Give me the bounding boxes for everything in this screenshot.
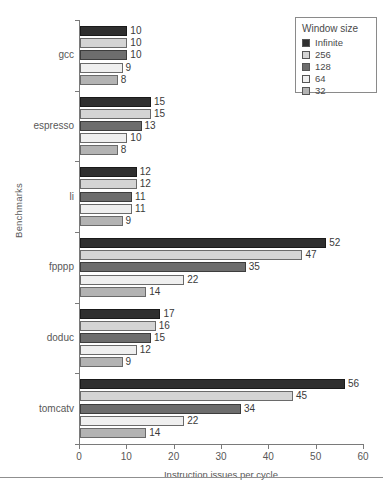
bar-value-label: 8	[121, 145, 127, 155]
bar	[80, 216, 123, 226]
bar-value-label: 45	[296, 391, 307, 401]
bar	[80, 391, 293, 401]
category-label: espresso	[4, 120, 74, 131]
bar	[80, 204, 132, 214]
legend-swatch-icon	[302, 87, 310, 95]
bar	[80, 121, 142, 131]
x-axis-label: Instruction issues per cycle	[79, 469, 363, 480]
legend-title: Window size	[302, 23, 370, 34]
category-label: fpppp	[4, 261, 74, 272]
bar-value-label: 14	[149, 428, 160, 438]
legend: Window size Infinite2561286432	[295, 17, 377, 93]
bar-value-label: 10	[130, 133, 141, 143]
x-tick	[221, 445, 222, 449]
category-label: li	[4, 191, 74, 202]
bar-value-label: 10	[130, 38, 141, 48]
x-tick-label: 40	[248, 451, 288, 462]
x-tick	[126, 445, 127, 449]
x-tick	[174, 445, 175, 449]
legend-item[interactable]: Infinite	[302, 37, 370, 48]
legend-label: 256	[315, 50, 331, 60]
bar	[80, 333, 151, 343]
category-label: tomcatv	[4, 403, 74, 414]
bar-value-label: 9	[126, 357, 132, 367]
x-tick-label: 10	[106, 451, 146, 462]
bar	[80, 145, 118, 155]
legend-item[interactable]: 128	[302, 61, 370, 72]
bar-value-label: 22	[187, 275, 198, 285]
y-tick	[75, 373, 79, 374]
bar-value-label: 13	[145, 121, 156, 131]
bar	[80, 357, 123, 367]
legend-item[interactable]: 64	[302, 73, 370, 84]
x-tick	[268, 445, 269, 449]
bar	[80, 167, 137, 177]
bar	[80, 238, 326, 248]
legend-label: 128	[315, 62, 331, 72]
bar-value-label: 8	[121, 75, 127, 85]
x-tick	[316, 445, 317, 449]
legend-entries: Infinite2561286432	[302, 37, 370, 96]
bar-value-label: 34	[244, 404, 255, 414]
x-tick	[363, 445, 364, 449]
chart-figure: Benchmarks 0102030405060 gcc10101098espr…	[0, 0, 383, 490]
x-tick-label: 0	[59, 451, 99, 462]
legend-item[interactable]: 256	[302, 49, 370, 60]
x-tick-label: 20	[154, 451, 194, 462]
bar-value-label: 11	[135, 192, 145, 202]
bar	[80, 416, 184, 426]
bar-group: li121211119	[80, 161, 363, 232]
bar-value-label: 22	[187, 416, 198, 426]
legend-swatch-icon	[302, 63, 310, 71]
legend-label: 32	[315, 86, 326, 96]
bar	[80, 109, 151, 119]
bar-value-label: 12	[140, 179, 151, 189]
bar	[80, 38, 127, 48]
legend-label: 64	[315, 74, 326, 84]
bar-value-label: 15	[154, 333, 165, 343]
bar-group: tomcatv5645342214	[80, 373, 363, 444]
bar-value-label: 11	[135, 204, 145, 214]
bar-value-label: 52	[329, 238, 340, 248]
bar	[80, 63, 123, 73]
bar	[80, 133, 127, 143]
bar-value-label: 12	[140, 167, 151, 177]
bar	[80, 179, 137, 189]
bar	[80, 97, 151, 107]
bar	[80, 404, 241, 414]
bar	[80, 379, 345, 389]
legend-item[interactable]: 32	[302, 85, 370, 96]
bar-value-label: 9	[126, 63, 132, 73]
x-tick-label: 60	[343, 451, 383, 462]
bar-value-label: 16	[159, 321, 170, 331]
bar	[80, 250, 302, 260]
bar-value-label: 15	[154, 97, 165, 107]
bar-value-label: 35	[249, 262, 260, 272]
bar-value-label: 12	[140, 345, 151, 355]
bar-value-label: 14	[149, 287, 160, 297]
bar-value-label: 47	[305, 250, 316, 260]
bar-group: fpppp5247352214	[80, 232, 363, 303]
bar-group: doduc171615129	[80, 303, 363, 374]
legend-swatch-icon	[302, 39, 310, 47]
bar	[80, 50, 127, 60]
bar	[80, 75, 118, 85]
bar	[80, 26, 127, 36]
bar-value-label: 10	[130, 50, 141, 60]
bar	[80, 275, 184, 285]
x-tick	[79, 445, 80, 449]
x-tick-label: 50	[296, 451, 336, 462]
y-tick	[75, 20, 79, 21]
legend-swatch-icon	[302, 51, 310, 59]
bar-group: espresso151513108	[80, 91, 363, 162]
footer-rule	[0, 477, 383, 478]
y-tick	[75, 303, 79, 304]
y-tick	[75, 161, 79, 162]
y-axis-label: Benchmarks	[13, 161, 24, 261]
bar	[80, 309, 160, 319]
bar	[80, 287, 146, 297]
y-tick	[75, 91, 79, 92]
bar	[80, 428, 146, 438]
x-tick-label: 30	[201, 451, 241, 462]
bar	[80, 192, 132, 202]
